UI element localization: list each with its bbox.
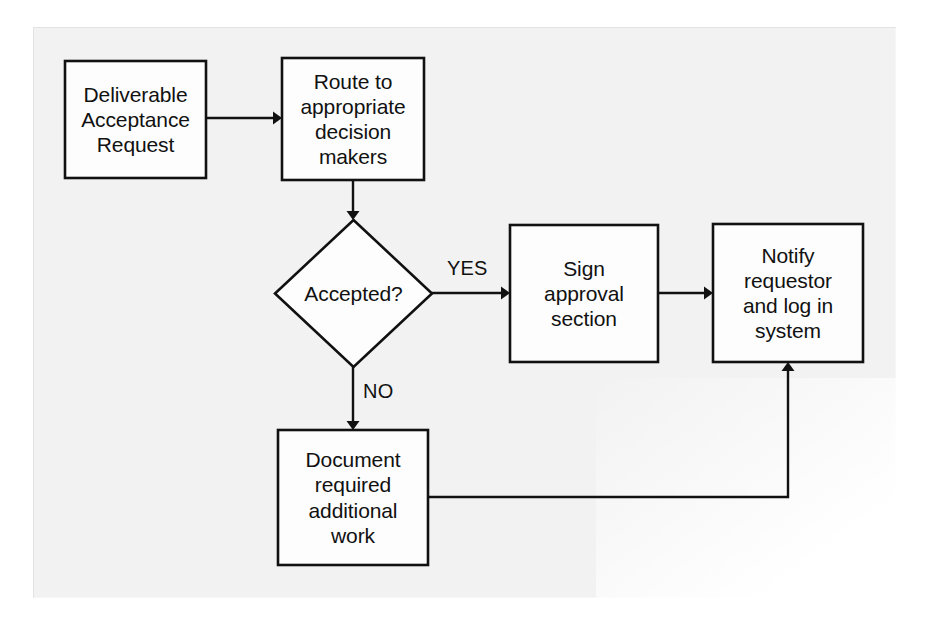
connector-document-to-notify — [428, 370, 788, 497]
node-shape-sign-approval-section[interactable] — [510, 225, 658, 362]
node-shape-route-to-decision-makers[interactable] — [282, 58, 424, 180]
node-shape-notify-requestor-log[interactable] — [713, 224, 863, 362]
flowchart-canvas — [0, 0, 927, 635]
arrowhead-accepted-yes-to-sign — [501, 287, 510, 300]
arrowhead-accepted-no-to-document — [347, 421, 360, 430]
arrowhead-request-to-route — [273, 112, 282, 125]
node-shape-deliverable-acceptance-request[interactable] — [65, 61, 206, 178]
node-shape-accepted-decision[interactable] — [275, 220, 432, 367]
edge-label-accepted-no-to-document: NO — [363, 381, 393, 401]
arrowhead-document-to-notify — [782, 362, 795, 371]
node-shape-document-additional-work[interactable] — [278, 430, 428, 565]
arrowhead-route-to-accepted — [347, 211, 360, 220]
arrowhead-sign-to-notify — [704, 287, 713, 300]
nodes-layer — [65, 58, 863, 565]
edge-label-accepted-yes-to-sign: YES — [447, 258, 488, 278]
flowchart-page: YESNODeliverable Acceptance RequestRoute… — [0, 0, 927, 635]
